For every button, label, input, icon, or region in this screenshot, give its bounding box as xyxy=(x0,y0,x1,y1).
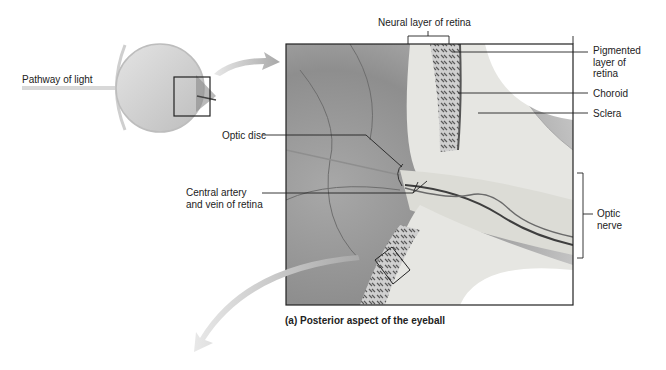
retina-detail-panel xyxy=(286,44,573,305)
label-optic-nerve-line-1: Optic xyxy=(597,208,622,220)
label-sclera: Sclera xyxy=(593,108,621,120)
label-pigmented-line-3: retina xyxy=(593,68,641,80)
zoom-arrow-top xyxy=(214,52,280,76)
label-central-artery-line-2: and vein of retina xyxy=(186,199,263,211)
label-optic-nerve-line-2: nerve xyxy=(597,220,622,232)
label-central-artery: Central artery and vein of retina xyxy=(186,187,263,210)
label-pigmented-line-1: Pigmented xyxy=(593,45,641,57)
figure-caption: (a) Posterior aspect of the eyeball xyxy=(285,315,445,326)
label-pathway-of-light: Pathway of light xyxy=(22,74,93,86)
label-pigmented-line-2: layer of xyxy=(593,57,641,69)
label-optic-nerve: Optic nerve xyxy=(597,208,622,231)
eyeball-overview xyxy=(22,44,216,132)
label-choroid: Choroid xyxy=(593,88,628,100)
label-central-artery-line-1: Central artery xyxy=(186,187,263,199)
label-neural-layer: Neural layer of retina xyxy=(378,17,471,29)
label-pigmented-layer: Pigmented layer of retina xyxy=(593,45,641,80)
label-optic-disc: Optic disc xyxy=(222,130,266,142)
